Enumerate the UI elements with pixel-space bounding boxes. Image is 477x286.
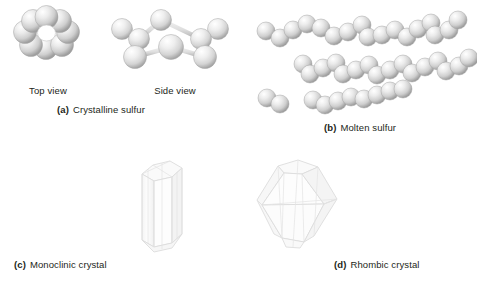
side-view-label: Side view [135,85,215,96]
rhombic-crystal-graphic [252,150,348,256]
caption-d-text: Rhombic crystal [350,259,419,270]
monoclinic-crystal-graphic [128,152,204,256]
s8-side-atoms [112,10,229,69]
caption-d: (d)Rhombic crystal [334,259,420,270]
panel-a-side-view [108,0,236,82]
caption-a: (a)Crystalline sulfur [57,104,145,115]
s8-ring-side-view-graphic [108,0,236,82]
caption-c-tag: (c) [14,259,26,270]
caption-c: (c)Monoclinic crystal [14,259,107,270]
caption-b-tag: (b) [324,122,336,133]
caption-d-tag: (d) [334,259,346,270]
chain-bottom [304,80,412,114]
panel-b-molten-chains [255,2,477,120]
chain-bottom-fragment [258,89,289,113]
caption-a-text: Crystalline sulfur [73,104,145,115]
molten-sulfur-chains-graphic [255,2,477,120]
panel-d-rhombic-crystal [252,150,348,256]
s8-ring-top-view-graphic [0,0,115,80]
caption-a-tag: (a) [57,104,69,115]
panel-c-monoclinic-crystal [128,152,204,256]
caption-b: (b)Molten sulfur [324,122,396,133]
sulfur-allotropes-figure: Top view Side view (a)Crystalline sulfur [0,0,477,286]
chain-top [257,11,467,47]
chain-middle [294,49,477,84]
panel-a-top-view [0,0,115,80]
s8-ring-atoms [14,6,80,60]
caption-c-text: Monoclinic crystal [30,259,107,270]
caption-b-text: Molten sulfur [340,122,396,133]
top-view-label: Top view [8,85,88,96]
